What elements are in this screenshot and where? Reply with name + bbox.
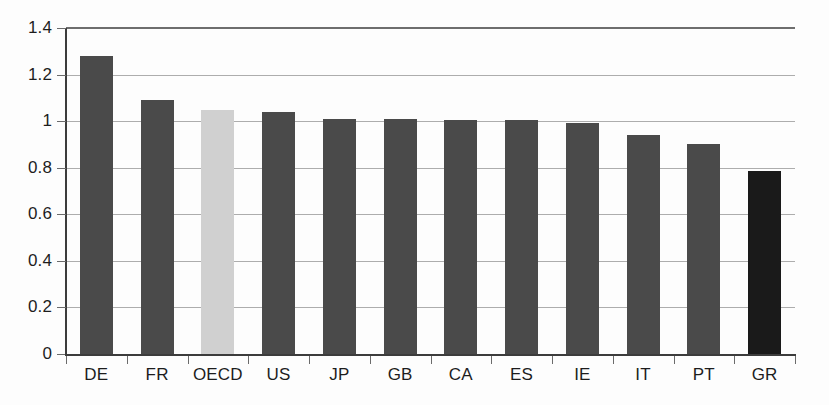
- bar-us: [262, 112, 295, 354]
- y-tick-mark: [57, 28, 66, 29]
- bar-es: [505, 120, 538, 354]
- y-tick-label-wrap: 1.2: [0, 66, 52, 84]
- x-tick-mark: [248, 356, 249, 364]
- y-tick-label-wrap: 0.6: [0, 205, 52, 223]
- x-tick-mark: [431, 356, 432, 364]
- plot-area: [0, 0, 829, 405]
- gridline: [66, 168, 795, 169]
- gridline: [66, 27, 795, 29]
- y-tick-label-wrap: 0.2: [0, 298, 52, 316]
- y-tick-label: 1.2: [2, 66, 52, 83]
- y-tick-mark: [57, 75, 66, 76]
- y-axis-line: [65, 28, 67, 355]
- x-tick-mark: [491, 356, 492, 364]
- x-tick-mark: [552, 356, 553, 364]
- bar-ca: [444, 120, 477, 354]
- gridline: [66, 307, 795, 308]
- x-tick-mark: [188, 356, 189, 364]
- gridline: [66, 261, 795, 262]
- y-tick-mark: [57, 214, 66, 215]
- bar-it: [627, 135, 660, 354]
- x-tick-mark: [370, 356, 371, 364]
- bar-fr: [141, 100, 174, 354]
- bar-pt: [687, 144, 720, 354]
- y-tick-label-wrap: 1.4: [0, 19, 52, 37]
- gridline: [66, 121, 795, 122]
- y-tick-label-wrap: 1: [0, 112, 52, 130]
- y-tick-label-wrap: 0: [0, 345, 52, 363]
- y-tick-label-wrap: 0.4: [0, 252, 52, 270]
- x-tick-mark: [795, 356, 796, 364]
- x-tick-label-gr: GR: [725, 366, 805, 383]
- bar-gb: [384, 119, 417, 354]
- x-tick-mark: [674, 356, 675, 364]
- gridline: [66, 75, 795, 76]
- y-tick-label: 0.6: [2, 205, 52, 222]
- y-tick-mark: [57, 261, 66, 262]
- y-tick-mark: [57, 168, 66, 169]
- x-tick-mark: [734, 356, 735, 364]
- bar-jp: [323, 119, 356, 354]
- y-tick-mark: [57, 121, 66, 122]
- y-tick-label: 0: [2, 345, 52, 362]
- y-tick-label-wrap: 0.8: [0, 159, 52, 177]
- y-tick-label: 0.8: [2, 159, 52, 176]
- x-tick-mark: [66, 356, 67, 364]
- x-tick-mark: [127, 356, 128, 364]
- y-tick-mark: [57, 307, 66, 308]
- bar-gr: [748, 171, 781, 354]
- y-tick-label: 1: [2, 112, 52, 129]
- x-tick-mark: [309, 356, 310, 364]
- bar-ie: [566, 123, 599, 354]
- bar-oecd: [201, 110, 234, 355]
- bar-de: [80, 56, 113, 354]
- y-tick-label: 1.4: [2, 19, 52, 36]
- y-tick-label: 0.2: [2, 298, 52, 315]
- bar-chart: 00.20.40.60.811.21.4 DEFROECDUSJPGBCAESI…: [0, 0, 829, 405]
- gridline: [66, 214, 795, 215]
- x-tick-mark: [613, 356, 614, 364]
- y-tick-label: 0.4: [2, 252, 52, 269]
